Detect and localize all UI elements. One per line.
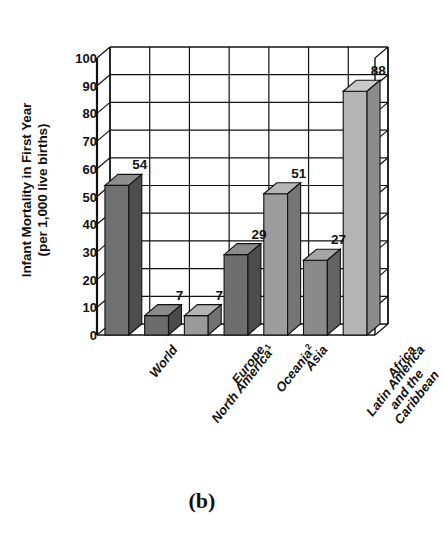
bar-front-face-6[interactable] <box>343 91 367 335</box>
bar-value-label-4: 51 <box>291 166 306 180</box>
bar-value-label-1: 7 <box>176 288 184 302</box>
bar-value-label-0: 54 <box>132 158 147 172</box>
gridline-depth-60 <box>97 158 110 169</box>
bar-value-label-5: 27 <box>331 233 346 247</box>
bar-value-label-3: 29 <box>251 227 266 241</box>
bar-side-face-5[interactable] <box>327 249 340 335</box>
x-category-label-1[interactable]: North America1 <box>209 343 277 425</box>
bar-3[interactable] <box>224 244 261 335</box>
gridline-depth-100 <box>97 47 110 58</box>
bar-6[interactable] <box>343 80 380 335</box>
bar-side-face-6[interactable] <box>367 80 380 335</box>
y-tick-label-80: 80 <box>53 107 97 120</box>
gridline-depth-right-100 <box>375 47 388 58</box>
bar-5[interactable] <box>304 249 341 335</box>
y-axis-title-line1: Infant Mortality in First Year <box>19 103 35 278</box>
figure-caption: (b) <box>0 488 404 514</box>
gridline-depth-70 <box>97 130 110 141</box>
plot-area <box>97 47 388 335</box>
bar-front-face-0[interactable] <box>105 185 129 335</box>
bar-side-face-0[interactable] <box>129 174 142 335</box>
y-axis-tick-labels: 1009080706050403020100 <box>47 47 97 335</box>
bar-front-face-4[interactable] <box>264 194 288 335</box>
y-tick-label-100: 100 <box>53 52 97 65</box>
y-tick-label-60: 60 <box>53 162 97 175</box>
bar-side-face-3[interactable] <box>248 244 261 335</box>
bar-front-face-5[interactable] <box>304 260 328 335</box>
bar-value-label-6: 88 <box>371 64 386 78</box>
bar-0[interactable] <box>105 174 142 335</box>
y-tick-label-0: 0 <box>53 329 97 342</box>
y-tick-label-20: 20 <box>53 273 97 286</box>
bar-side-face-4[interactable] <box>288 183 301 335</box>
x-category-label-0[interactable]: World <box>147 343 180 380</box>
y-tick-label-40: 40 <box>53 218 97 231</box>
bar-front-face-3[interactable] <box>224 255 248 335</box>
y-tick-label-90: 90 <box>53 79 97 92</box>
gridline-depth-90 <box>97 75 110 86</box>
bar-front-face-1[interactable] <box>145 316 169 335</box>
y-tick-label-10: 10 <box>53 301 97 314</box>
bar-value-label-2: 7 <box>216 288 224 302</box>
bar-4[interactable] <box>264 183 301 335</box>
y-tick-label-50: 50 <box>53 190 97 203</box>
y-tick-label-30: 30 <box>53 245 97 258</box>
bar-chart-svg <box>97 47 408 347</box>
y-tick-label-70: 70 <box>53 135 97 148</box>
gridline-depth-80 <box>97 102 110 113</box>
bar-front-face-2[interactable] <box>184 316 208 335</box>
